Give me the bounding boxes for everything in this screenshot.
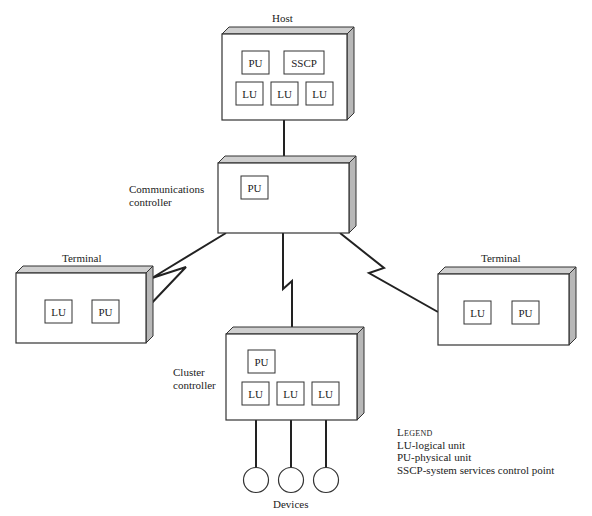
comms-to-left-terminal-zigzag — [147, 233, 226, 308]
host-sscp-label: SSCP — [291, 57, 317, 69]
host-box-side — [347, 27, 354, 120]
cluster-box-top — [226, 327, 364, 334]
legend-item-sscp: SSCP-system services control point — [397, 464, 554, 477]
host-lu-label: LU — [242, 88, 257, 100]
comms-label-line2: controller — [129, 196, 172, 208]
host-label: Host — [272, 12, 293, 24]
legend: Legend LU-logical unit PU-physical unit … — [397, 426, 554, 476]
right-terminal-lu-label: LU — [470, 307, 485, 319]
cluster-lu-label: LU — [248, 388, 263, 400]
host-lu-label: LU — [312, 88, 327, 100]
communications-controller-node: PU Communications controller — [129, 156, 356, 233]
right-terminal-box — [438, 274, 569, 345]
legend-title: Legend — [397, 426, 554, 439]
comms-box — [218, 163, 349, 233]
left-terminal-node: LU PU Terminal — [16, 252, 153, 343]
comms-pu-label: PU — [247, 182, 261, 194]
host-box-top — [222, 27, 354, 34]
host-pu-label: PU — [248, 57, 262, 69]
left-terminal-pu-label: PU — [98, 306, 112, 318]
cluster-box — [226, 334, 357, 420]
right-terminal-node: LU PU Terminal — [438, 252, 576, 345]
legend-item-lu: LU-logical unit — [397, 439, 554, 452]
cluster-box-side — [357, 327, 364, 420]
comms-to-cluster-zigzag — [283, 233, 292, 327]
devices-group — [244, 468, 339, 493]
cluster-label-line2: controller — [173, 379, 216, 391]
cluster-lu-label: LU — [283, 388, 298, 400]
comms-box-side — [349, 156, 356, 233]
host-box — [222, 34, 347, 120]
left-terminal-box-side — [146, 266, 153, 343]
host-node: PU SSCP LU LU LU Host — [222, 12, 354, 120]
right-terminal-box-top — [438, 267, 576, 274]
left-terminal-label: Terminal — [62, 252, 102, 264]
device-circle — [314, 468, 339, 493]
right-terminal-pu-label: PU — [518, 307, 532, 319]
comms-to-right-terminal-zigzag — [340, 233, 438, 312]
cluster-controller-node: PU LU LU LU Cluster controller — [173, 327, 364, 420]
host-lu-label: LU — [277, 88, 292, 100]
comms-label-line1: Communications — [129, 183, 204, 195]
device-circle — [279, 468, 304, 493]
device-circle — [244, 468, 269, 493]
left-terminal-box-top — [16, 266, 153, 273]
right-terminal-box-side — [569, 267, 576, 345]
left-terminal-box — [16, 273, 146, 343]
devices-label: Devices — [273, 498, 308, 510]
right-terminal-label: Terminal — [481, 252, 521, 264]
comms-box-top — [218, 156, 356, 163]
left-terminal-lu-label: LU — [51, 306, 66, 318]
cluster-lu-label: LU — [318, 388, 333, 400]
cluster-pu-label: PU — [254, 356, 268, 368]
cluster-label-line1: Cluster — [173, 366, 205, 378]
legend-item-pu: PU-physical unit — [397, 451, 554, 464]
